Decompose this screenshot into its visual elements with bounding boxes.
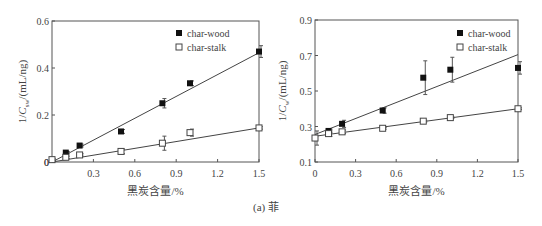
data-point — [49, 157, 55, 163]
legend-label: char-stalk — [468, 42, 507, 53]
data-point — [63, 154, 69, 160]
legend-marker-filled — [176, 30, 182, 36]
x-tick-label: 0.6 — [390, 168, 403, 179]
x-tick-label: 1.5 — [512, 168, 525, 179]
y-tick-label: 0.9 — [300, 15, 313, 26]
chart-left-phenanthrene-csw: 00.20.40.60.30.60.91.21.50黑炭含量/%1/Csw/(m… — [0, 0, 271, 200]
chart-right-svg: 0.10.30.50.70.900.30.60.91.21.5黑炭含量/%1/C… — [271, 0, 542, 200]
legend: char-woodchar-stalk — [176, 28, 230, 53]
data-point — [420, 75, 426, 81]
origin-label: 0 — [44, 157, 49, 168]
fit-line — [52, 53, 259, 162]
data-point — [447, 67, 453, 73]
data-point — [187, 80, 193, 86]
x-tick-label: 1.2 — [471, 168, 484, 179]
data-point — [420, 118, 426, 124]
x-tick-label: 1.2 — [211, 168, 224, 179]
data-point — [256, 49, 262, 55]
x-tick-label: 0 — [313, 168, 318, 179]
y-tick-label: 0.2 — [37, 110, 50, 121]
x-tick-label: 0.3 — [87, 168, 100, 179]
legend-marker-filled — [457, 30, 463, 36]
legend-label: char-stalk — [187, 42, 226, 53]
y-tick-label: 0.3 — [300, 122, 313, 133]
data-point — [187, 130, 193, 136]
data-point — [256, 125, 262, 131]
data-point — [159, 100, 165, 106]
y-tick-label: 0.7 — [300, 51, 313, 62]
y-axis-label: 1/Cw/(mL/ng) — [276, 60, 291, 121]
y-axis-label: 1/Csw/(mL/ng) — [16, 59, 31, 123]
legend-marker-open — [176, 44, 182, 50]
data-point — [77, 152, 83, 158]
x-tick-label: 1.5 — [253, 168, 266, 179]
figure-caption: (a) 菲 — [253, 198, 279, 214]
y-tick-label: 0.4 — [37, 63, 50, 74]
data-point — [77, 143, 83, 149]
legend-marker-open — [457, 44, 463, 50]
data-point — [380, 125, 386, 131]
y-tick-label: 0.5 — [300, 86, 313, 97]
data-point — [515, 65, 521, 71]
chart-left-svg: 00.20.40.60.30.60.91.21.50黑炭含量/%1/Csw/(m… — [0, 0, 271, 200]
x-tick-label: 0.3 — [349, 168, 362, 179]
data-point — [118, 128, 124, 134]
data-point — [515, 106, 521, 112]
y-tick-label: 0.6 — [37, 16, 50, 27]
x-tick-label: 0.6 — [129, 168, 142, 179]
x-axis-label: 黑炭含量/% — [127, 184, 183, 197]
y-tick-label: 0.1 — [300, 157, 313, 168]
legend-label: char-wood — [468, 28, 511, 39]
legend: char-woodchar-stalk — [457, 28, 511, 53]
x-axis-label: 黑炭含量/% — [388, 184, 444, 197]
plot-frame — [52, 21, 259, 162]
data-point — [312, 135, 318, 141]
x-tick-label: 0.9 — [170, 168, 183, 179]
chart-right-phenanthrene-cw: 0.10.30.50.70.900.30.60.91.21.5黑炭含量/%1/C… — [271, 0, 542, 200]
data-point — [118, 148, 124, 154]
data-point — [447, 115, 453, 121]
x-tick-label: 0.9 — [431, 168, 444, 179]
legend-label: char-wood — [187, 28, 230, 39]
data-point — [326, 131, 332, 137]
data-point — [339, 129, 345, 135]
data-point — [380, 108, 386, 114]
data-point — [339, 121, 345, 127]
data-point — [159, 140, 165, 146]
